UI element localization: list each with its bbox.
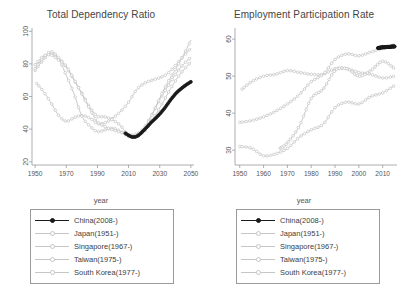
svg-text:1970: 1970 <box>59 170 74 177</box>
legend-item-singapore[interactable]: Singapore(1967-) <box>35 240 168 253</box>
svg-text:2010: 2010 <box>121 170 136 177</box>
legend-item-taiwan[interactable]: Taiwan(1975-) <box>35 253 168 266</box>
legend-item-china[interactable]: China(2008-) <box>241 214 374 227</box>
svg-text:1980: 1980 <box>304 170 319 177</box>
x-axis-label-right: year <box>203 196 405 205</box>
legend-label-japan: Japan(1951-) <box>74 230 119 238</box>
legend-marker-singapore <box>35 242 69 251</box>
legend-left: China(2008-) Japan(1951-) Singapore(1967… <box>30 209 174 284</box>
svg-text:1990: 1990 <box>90 170 105 177</box>
chart-title-right: Employment Participation Rate <box>203 9 405 20</box>
legend-marker-japan <box>241 229 275 238</box>
legend-marker-taiwan <box>241 255 275 264</box>
legend-label-singapore: Singapore(1967-) <box>280 243 338 251</box>
panel-total-dependency-ratio: Total Dependency Ratio 20406080100195019… <box>0 0 202 296</box>
line-chart-right: 304050601950196019701980199020002010 <box>203 22 405 187</box>
svg-text:2000: 2000 <box>352 170 367 177</box>
legend-item-singapore[interactable]: Singapore(1967-) <box>241 240 374 253</box>
figure-root: Total Dependency Ratio 20406080100195019… <box>0 0 405 296</box>
svg-text:80: 80 <box>22 60 29 68</box>
svg-text:40: 40 <box>225 109 232 117</box>
svg-text:1970: 1970 <box>280 170 295 177</box>
svg-text:50: 50 <box>225 72 232 80</box>
svg-text:1950: 1950 <box>232 170 247 177</box>
svg-text:40: 40 <box>22 125 29 133</box>
x-axis-label-left: year <box>0 196 202 205</box>
legend-marker-south-korea <box>241 268 275 277</box>
plot-area-right: 304050601950196019701980199020002010 <box>203 22 405 187</box>
legend-item-japan[interactable]: Japan(1951-) <box>35 227 168 240</box>
plot-area-left: 20406080100195019701990201020302050 <box>0 22 202 187</box>
svg-text:20: 20 <box>22 158 29 166</box>
legend-item-china[interactable]: China(2008-) <box>35 214 168 227</box>
svg-text:2050: 2050 <box>184 170 199 177</box>
legend-item-south-korea[interactable]: South Korea(1977-) <box>241 266 374 279</box>
line-chart-left: 20406080100195019701990201020302050 <box>0 22 202 187</box>
svg-text:100: 100 <box>22 25 29 36</box>
chart-title-left: Total Dependency Ratio <box>0 9 202 20</box>
svg-text:60: 60 <box>22 93 29 101</box>
legend-label-taiwan: Taiwan(1975-) <box>280 256 328 264</box>
legend-label-taiwan: Taiwan(1975-) <box>74 256 122 264</box>
legend-marker-south-korea <box>35 268 69 277</box>
legend-marker-china <box>35 216 69 225</box>
legend-label-south-korea: South Korea(1977-) <box>74 269 140 277</box>
legend-item-south-korea[interactable]: South Korea(1977-) <box>35 266 168 279</box>
svg-text:1950: 1950 <box>28 170 43 177</box>
svg-text:2030: 2030 <box>152 170 167 177</box>
legend-label-south-korea: South Korea(1977-) <box>280 269 346 277</box>
legend-item-japan[interactable]: Japan(1951-) <box>241 227 374 240</box>
panel-employment-participation-rate: Employment Participation Rate 3040506019… <box>203 0 405 296</box>
legend-marker-china <box>241 216 275 225</box>
legend-label-china: China(2008-) <box>74 217 118 225</box>
legend-label-japan: Japan(1951-) <box>280 230 325 238</box>
legend-label-singapore: Singapore(1967-) <box>74 243 132 251</box>
svg-text:60: 60 <box>225 35 232 43</box>
legend-marker-taiwan <box>35 255 69 264</box>
legend-marker-singapore <box>241 242 275 251</box>
legend-item-taiwan[interactable]: Taiwan(1975-) <box>241 253 374 266</box>
svg-text:2010: 2010 <box>375 170 390 177</box>
svg-text:1990: 1990 <box>328 170 343 177</box>
legend-marker-japan <box>35 229 69 238</box>
legend-label-china: China(2008-) <box>280 217 324 225</box>
svg-text:1960: 1960 <box>256 170 271 177</box>
svg-text:30: 30 <box>225 146 232 154</box>
legend-right: China(2008-) Japan(1951-) Singapore(1967… <box>236 209 380 284</box>
